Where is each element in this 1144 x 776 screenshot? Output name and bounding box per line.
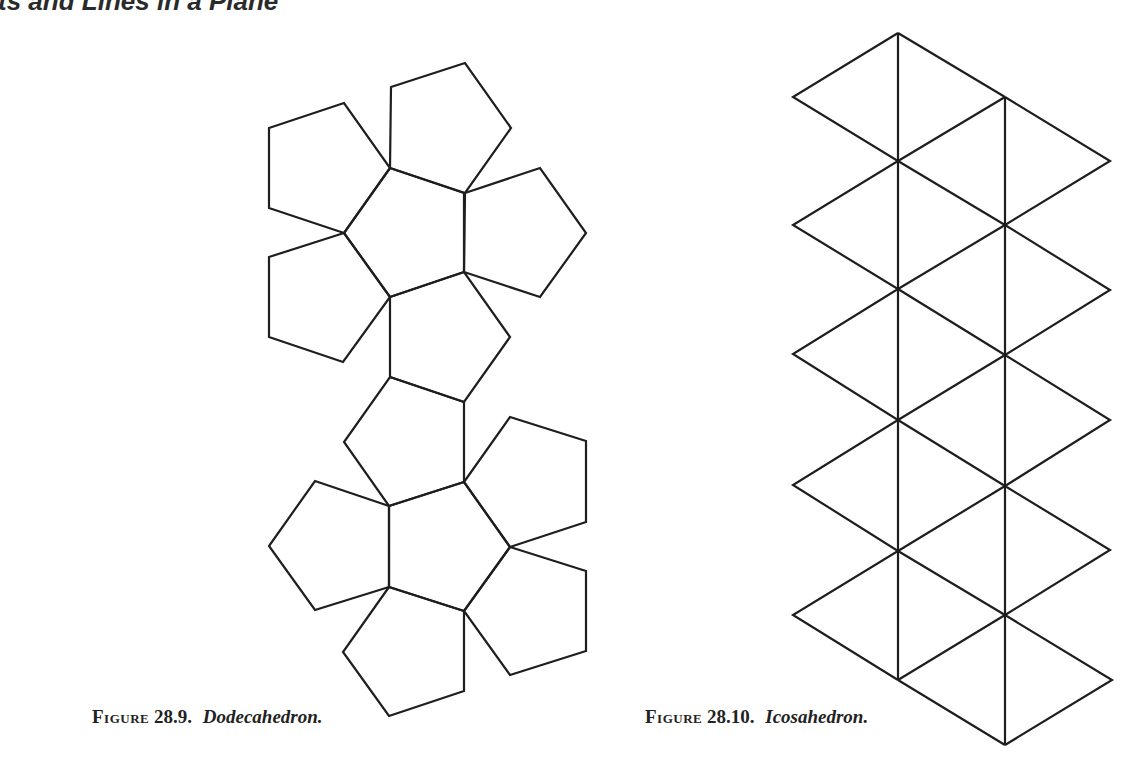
icosa-diag bbox=[898, 355, 1005, 420]
icosa-diag bbox=[898, 615, 1005, 680]
pentagon-mid-left bbox=[269, 233, 390, 362]
icosa-left-zigzag bbox=[793, 33, 898, 680]
figure-canvas bbox=[0, 0, 1144, 776]
pentagon-bottom bbox=[343, 587, 464, 716]
figure-label: Figure bbox=[645, 706, 702, 727]
figure-caption-icosahedron: Figure 28.10. Icosahedron. bbox=[645, 706, 868, 728]
icosa-diag bbox=[898, 289, 1005, 355]
pentagon-bottom-upper-right bbox=[464, 417, 586, 547]
icosa-diag bbox=[898, 161, 1005, 225]
figure-number: 28.9. bbox=[154, 706, 192, 727]
pentagon-top bbox=[390, 63, 511, 193]
figure-caption-dodecahedron: Figure 28.9. Dodecahedron. bbox=[92, 706, 323, 728]
icosa-diagonal-down bbox=[898, 33, 1005, 97]
figure-title: Dodecahedron. bbox=[203, 706, 323, 727]
pentagon-top-right bbox=[464, 168, 586, 297]
icosa-right-zigzag bbox=[1005, 97, 1112, 745]
pentagon-top-left bbox=[269, 103, 390, 233]
icosa-diag bbox=[898, 225, 1005, 289]
pentagon-bottom-left bbox=[269, 481, 389, 610]
dodecahedron-net bbox=[269, 63, 586, 716]
figure-label: Figure bbox=[92, 706, 149, 727]
icosa-diag bbox=[898, 420, 1005, 486]
pentagon-bottom-center bbox=[389, 482, 510, 611]
icosa-diag bbox=[898, 680, 1005, 745]
icosa-diag bbox=[898, 97, 1005, 161]
pentagon-bottom-lower-right bbox=[464, 547, 586, 675]
icosahedron-net bbox=[793, 33, 1112, 745]
icosa-diag bbox=[898, 551, 1005, 615]
figure-number: 28.10. bbox=[707, 706, 755, 727]
figure-title: Icosahedron. bbox=[765, 706, 868, 727]
icosa-diag bbox=[898, 486, 1005, 551]
